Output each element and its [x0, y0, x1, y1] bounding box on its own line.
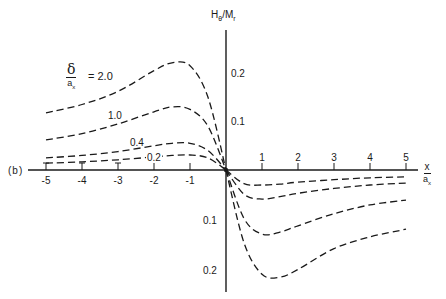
x-tick-label--1: -1	[186, 176, 195, 186]
x-axis-label: x ax	[423, 162, 431, 186]
x-tick-label-1: 1	[259, 153, 265, 163]
x-tick-label--5: -5	[42, 176, 51, 186]
x-tick-label--3: -3	[114, 176, 123, 186]
y-tick-label-neg-0.2: 0.2	[203, 266, 217, 276]
x-tick-label-3: 3	[331, 153, 337, 163]
curve-0.2-right	[226, 170, 406, 185]
legend-label-0.2: 0.2	[146, 153, 162, 163]
y-tick-label-0.1: 0.1	[231, 117, 245, 127]
curve-0.4-right	[226, 170, 406, 199]
x-tick-label--2: -2	[150, 176, 159, 186]
curve-2.0-right	[226, 170, 406, 278]
curve-1.0-right	[226, 170, 406, 235]
legend-label-0.4: 0.4	[130, 138, 144, 148]
x-tick-label-4: 4	[367, 153, 373, 163]
x-tick-label-5: 5	[403, 153, 409, 163]
y-tick-label-0.2: 0.2	[231, 69, 245, 79]
curve-0.2-left	[46, 155, 226, 170]
legend-label-2.0: = 2.0	[88, 71, 113, 82]
x-tick-label-2: 2	[295, 153, 301, 163]
legend-parameter-fraction: δ ax	[66, 62, 76, 90]
legend-label-1.0: 1.0	[108, 111, 122, 121]
chart-canvas	[0, 0, 446, 299]
y-axis-label: Hθ/Mr	[211, 10, 236, 22]
panel-label: (b)	[8, 166, 23, 176]
x-tick-label--4: -4	[78, 176, 87, 186]
y-tick-label-neg-0.1: 0.1	[203, 216, 217, 226]
